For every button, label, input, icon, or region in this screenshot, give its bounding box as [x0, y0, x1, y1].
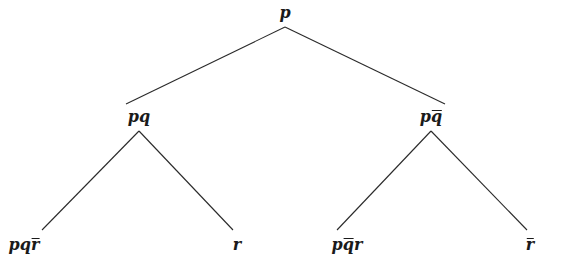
- symbol: q: [139, 107, 150, 126]
- node-pq: pq: [128, 109, 150, 125]
- edge-left-ll: [42, 131, 139, 230]
- negated-symbol: r: [526, 237, 534, 253]
- node-pq-rbar: pqr: [9, 237, 40, 253]
- node-root: p: [279, 5, 290, 21]
- tree-diagram: p pq pq pqr r pqr r: [0, 0, 565, 267]
- negated-symbol: r: [31, 237, 39, 253]
- symbol: p: [9, 235, 20, 254]
- symbol: p: [420, 107, 431, 126]
- edge-right-rr: [431, 131, 527, 230]
- edge-root-left: [126, 27, 285, 104]
- negated-symbol: q: [431, 109, 442, 125]
- node-p-qbar-r: pqr: [332, 237, 363, 253]
- symbol: p: [279, 3, 290, 22]
- edge-root-right: [285, 27, 445, 104]
- symbol: r: [354, 235, 362, 254]
- node-p-qbar: pq: [420, 109, 442, 125]
- tree-edges: [0, 0, 565, 267]
- symbol: p: [128, 107, 139, 126]
- symbol: p: [332, 235, 343, 254]
- edge-right-rl: [337, 131, 431, 230]
- node-rbar: r: [526, 237, 534, 253]
- negated-symbol: q: [343, 237, 354, 253]
- edge-left-lr: [139, 131, 233, 230]
- symbol: q: [20, 235, 31, 254]
- symbol: r: [233, 235, 241, 254]
- node-r: r: [233, 237, 241, 253]
